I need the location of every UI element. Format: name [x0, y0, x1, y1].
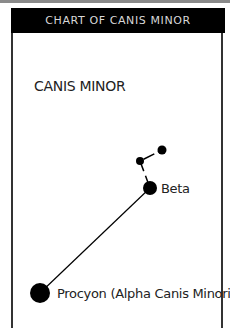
star-label-beta: Beta — [161, 181, 190, 196]
star-label-procyon: Procyon (Alpha Canis Minoris) — [57, 286, 230, 301]
star-beta-icon — [143, 181, 157, 195]
star-icon — [136, 157, 144, 165]
line-procyon-beta — [40, 188, 150, 293]
star-procyon-icon — [30, 283, 50, 303]
star-icon — [158, 146, 167, 155]
